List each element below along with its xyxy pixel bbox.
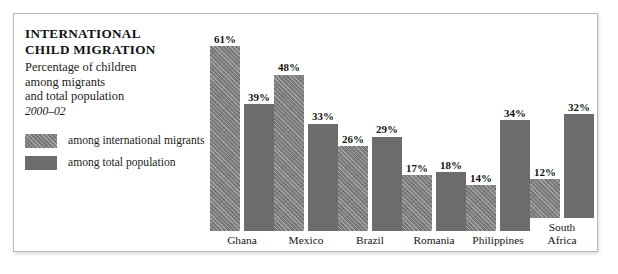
bar-item: 29%: [372, 33, 402, 231]
bar-migrants: [402, 175, 432, 230]
bar-value-label: 32%: [568, 101, 590, 113]
bar-migrants: [338, 146, 368, 230]
bar-value-label: 17%: [406, 162, 428, 174]
legend-item-total-population: among total population: [25, 155, 215, 170]
bar-value-label: 48%: [278, 61, 300, 73]
category-label: Brazil: [356, 234, 384, 246]
bar-value-label: 33%: [312, 110, 334, 122]
category-label: Mexico: [289, 234, 324, 246]
bar-migrants: [210, 46, 240, 231]
page-title: INTERNATIONAL CHILD MIGRATION: [25, 26, 203, 57]
bar-group: 12%32%South Africa: [530, 20, 594, 246]
bar-item: 17%: [402, 33, 432, 231]
title-line-1: INTERNATIONAL: [25, 26, 141, 41]
screenshot-root: INTERNATIONAL CHILD MIGRATION Percentage…: [0, 0, 618, 274]
bar-migrants: [466, 185, 496, 230]
bar-item: 32%: [564, 20, 594, 218]
bar-total-population: [244, 104, 274, 231]
legend-label-total-population: among total population: [68, 156, 176, 169]
bar-item: 61%: [210, 33, 240, 231]
bar-group: 17%18%Romania: [402, 20, 466, 246]
bar-pair: 14%34%: [466, 33, 530, 231]
bar-group: 61%39%Ghana: [210, 20, 274, 246]
category-label: Philippines: [472, 234, 523, 246]
chart-legend: among international migrants among total…: [25, 133, 215, 177]
subtitle-line-3: and total population: [25, 89, 203, 104]
legend-swatch-hatched-icon: [25, 134, 57, 148]
bar-pair: 61%39%: [210, 33, 274, 231]
bar-item: 12%: [530, 20, 560, 218]
bar-total-population: [500, 120, 530, 230]
bar-value-label: 29%: [376, 123, 398, 135]
bar-total-population: [372, 137, 402, 231]
bar-value-label: 18%: [440, 159, 462, 171]
category-label: South Africa: [547, 221, 576, 246]
subtitle-line-2: among migrants: [25, 75, 203, 90]
chart-panel: INTERNATIONAL CHILD MIGRATION Percentage…: [13, 13, 598, 252]
bar-groups: 61%39%Ghana48%33%Mexico26%29%Brazil17%18…: [210, 20, 592, 246]
bar-migrants: [530, 179, 560, 218]
legend-swatch-solid-icon: [25, 156, 57, 170]
bar-value-label: 14%: [470, 172, 492, 184]
bar-total-population: [308, 124, 338, 231]
bar-pair: 17%18%: [402, 33, 466, 231]
bar-group: 14%34%Philippines: [466, 20, 530, 246]
bar-item: 48%: [274, 33, 304, 231]
bar-group: 26%29%Brazil: [338, 20, 402, 246]
bar-value-label: 61%: [214, 33, 236, 45]
bar-value-label: 26%: [342, 133, 364, 145]
bar-item: 26%: [338, 33, 368, 231]
category-label: Ghana: [227, 234, 257, 246]
bar-group: 48%33%Mexico: [274, 20, 338, 246]
title-line-2: CHILD MIGRATION: [25, 42, 203, 58]
bar-value-label: 39%: [248, 91, 270, 103]
bar-pair: 48%33%: [274, 33, 338, 231]
bar-total-population: [436, 172, 466, 230]
bar-item: 39%: [244, 33, 274, 231]
bar-item: 33%: [308, 33, 338, 231]
subtitle-line-1: Percentage of children: [25, 60, 203, 75]
caption-block: INTERNATIONAL CHILD MIGRATION Percentage…: [25, 26, 203, 119]
bar-item: 14%: [466, 33, 496, 231]
bar-migrants: [274, 75, 304, 231]
bar-chart-plot: 61%39%Ghana48%33%Mexico26%29%Brazil17%18…: [210, 20, 592, 246]
bar-value-label: 34%: [504, 107, 526, 119]
bar-item: 18%: [436, 33, 466, 231]
date-range-label: 2000–02: [25, 105, 203, 120]
chart-subtitle: Percentage of children among migrants an…: [25, 60, 203, 119]
category-label: Romania: [413, 234, 454, 246]
bar-pair: 12%32%: [530, 20, 594, 218]
bar-total-population: [564, 114, 594, 218]
bar-value-label: 12%: [534, 166, 556, 178]
legend-label-migrants: among international migrants: [68, 134, 205, 147]
bar-item: 34%: [500, 33, 530, 231]
bar-pair: 26%29%: [338, 33, 402, 231]
legend-item-migrants: among international migrants: [25, 133, 215, 148]
